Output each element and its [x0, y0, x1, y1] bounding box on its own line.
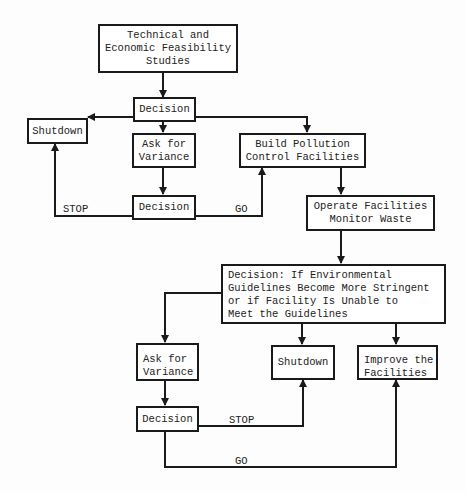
node-label: Shutdown — [32, 125, 82, 138]
node-feasibility-studies: Technical and Economic Feasibility Studi… — [98, 24, 238, 73]
node-shutdown-2: Shutdown — [271, 345, 335, 380]
edge-label-stop-2: STOP — [229, 414, 254, 426]
node-label: Build Pollution Control Facilities — [246, 138, 359, 164]
node-ask-variance-1: Ask for Variance — [132, 133, 196, 168]
node-decision-1: Decision — [133, 97, 196, 122]
node-operate-facilities: Operate Facilities Monitor Waste — [306, 195, 435, 231]
edge-label-go-2: GO — [235, 455, 248, 467]
node-label: Decision: If Environmental Guidelines Be… — [228, 269, 430, 321]
edge-label-go-1: GO — [235, 203, 248, 215]
edge-label-stop-1: STOP — [63, 203, 88, 215]
node-decision-environmental: Decision: If Environmental Guidelines Be… — [221, 264, 446, 324]
node-label: Technical and Economic Feasibility Studi… — [105, 29, 231, 68]
node-label: Ask for Variance — [139, 138, 189, 164]
flowchart-canvas: Technical and Economic Feasibility Studi… — [0, 0, 466, 492]
node-label: Decision — [139, 103, 189, 116]
node-decision-3: Decision — [136, 406, 199, 432]
node-label: Shutdown — [278, 356, 328, 369]
node-label: Ask for Variance — [143, 353, 193, 379]
node-label: Improve the Facilities — [364, 354, 433, 380]
node-shutdown-1: Shutdown — [27, 118, 88, 144]
node-label: Decision — [142, 413, 192, 426]
node-label: Decision — [139, 201, 189, 214]
node-ask-variance-2: Ask for Variance — [136, 343, 199, 381]
node-decision-2: Decision — [132, 195, 196, 220]
node-label: Operate Facilities Monitor Waste — [314, 200, 427, 226]
node-improve-facilities: Improve the Facilities — [357, 345, 438, 380]
node-build-facilities: Build Pollution Control Facilities — [239, 133, 366, 168]
